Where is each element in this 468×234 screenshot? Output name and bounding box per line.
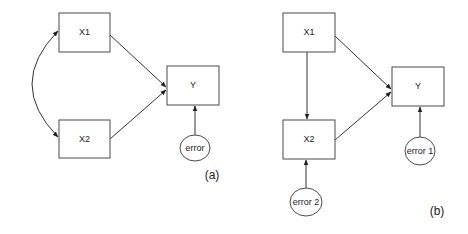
- node-x1: X1: [283, 13, 335, 52]
- node-x2: X2: [59, 120, 110, 158]
- edge-x1-x2-covariance: [32, 31, 58, 137]
- diagram-a: X1 X2 Y error (a): [32, 13, 219, 182]
- node-error1-label: error 1: [407, 146, 434, 156]
- edge-x1-y: [335, 36, 391, 89]
- node-y-label: Y: [190, 80, 196, 90]
- node-error-label: error: [185, 143, 204, 153]
- path-diagrams: X1 X2 Y error (a) X1 X2: [0, 0, 468, 234]
- node-y: Y: [167, 66, 219, 105]
- node-error2: error 2: [290, 188, 322, 216]
- node-error1: error 1: [405, 137, 435, 165]
- caption-b: (b): [430, 204, 445, 218]
- edge-x2-y: [110, 90, 166, 139]
- node-x2: X2: [283, 120, 335, 159]
- node-y-label: Y: [415, 81, 421, 91]
- node-x1-label: X1: [79, 27, 90, 37]
- node-x1-label: X1: [303, 27, 314, 37]
- caption-a: (a): [205, 168, 220, 182]
- node-y: Y: [392, 67, 444, 106]
- node-x2-label: X2: [303, 134, 314, 144]
- edge-x2-y: [335, 92, 391, 140]
- edge-x1-y: [110, 35, 166, 87]
- node-error: error: [180, 135, 210, 161]
- diagram-b: X1 X2 Y error 1 error 2 (b): [283, 13, 444, 218]
- node-error2-label: error 2: [293, 197, 320, 207]
- node-x2-label: X2: [79, 134, 90, 144]
- node-x1: X1: [59, 13, 110, 52]
